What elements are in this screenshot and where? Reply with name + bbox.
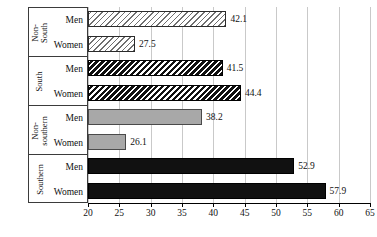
bar	[88, 36, 135, 52]
bar-row: 26.1	[88, 130, 370, 155]
row-label-women: Women	[51, 82, 87, 107]
group-block-southern: Southern Men Women	[29, 155, 87, 204]
x-axis-tick-label: 55	[303, 208, 313, 218]
bar-row: 38.2	[88, 105, 370, 130]
bar-row: 27.5	[88, 32, 370, 57]
row-label-men: Men	[51, 57, 87, 82]
bar	[88, 60, 223, 76]
group-label-line1: South	[35, 72, 45, 92]
bar-row: 42.1	[88, 7, 370, 32]
bar	[88, 109, 202, 125]
x-axis-tick-label: 65	[365, 208, 375, 218]
bar-value-label: 27.5	[135, 36, 156, 52]
bar-value-label: 26.1	[126, 134, 147, 150]
x-axis-tick	[245, 204, 246, 207]
x-axis-tick	[307, 204, 308, 207]
row-labels-non-southern: Men Women	[51, 106, 87, 154]
row-label-men: Men	[51, 155, 87, 180]
group-block-non-south: Non-South Men Women	[29, 8, 87, 57]
group-label-line1: Southern	[35, 164, 45, 195]
bar-value-label: 57.9	[326, 183, 347, 199]
x-axis-tick	[213, 204, 214, 207]
row-labels-non-south: Men Women	[51, 8, 87, 56]
bar-value-label: 38.2	[202, 109, 223, 125]
bar	[88, 134, 126, 150]
bar-value-label: 42.1	[226, 11, 247, 27]
x-axis-tick-label: 35	[177, 208, 187, 218]
x-axis-tick	[276, 204, 277, 207]
row-label-men: Men	[51, 106, 87, 131]
bar-value-label: 52.9	[294, 158, 315, 174]
bar	[88, 158, 294, 174]
group-label-line2: southern	[39, 116, 49, 145]
row-labels-southern: Men Women	[51, 155, 87, 204]
row-label-men: Men	[51, 8, 87, 33]
x-axis-tick-label: 20	[83, 208, 93, 218]
gridline	[370, 7, 371, 203]
group-block-south: South Men Women	[29, 57, 87, 106]
x-axis-tick-label: 30	[146, 208, 156, 218]
plot-area: 42.127.541.544.438.226.152.957.9	[88, 7, 370, 203]
group-label-southern: Southern	[29, 155, 51, 204]
group-block-non-southern: Non-southern Men Women	[29, 106, 87, 155]
x-axis-tick	[339, 204, 340, 207]
x-axis-tick	[151, 204, 152, 207]
x-axis-tick-label: 45	[240, 208, 250, 218]
x-axis-tick-label: 60	[334, 208, 344, 218]
category-label-panel: Non-South Men Women South Men Women Non-…	[28, 7, 88, 203]
x-axis-tick	[182, 204, 183, 207]
bar	[88, 85, 241, 101]
bar-row: 44.4	[88, 81, 370, 106]
bar-value-label: 41.5	[223, 60, 244, 76]
x-axis-tick-label: 25	[115, 208, 125, 218]
bar	[88, 183, 326, 199]
bar-row: 41.5	[88, 56, 370, 81]
group-label-line2: South	[39, 23, 49, 43]
bar	[88, 11, 226, 27]
x-axis-tick-label: 50	[271, 208, 281, 218]
x-axis-tick	[370, 204, 371, 207]
x-axis-tick	[88, 204, 89, 207]
row-label-women: Women	[51, 131, 87, 156]
row-labels-south: Men Women	[51, 57, 87, 105]
x-axis-tick-label: 40	[209, 208, 219, 218]
row-label-women: Women	[51, 33, 87, 58]
x-axis-tick	[119, 204, 120, 207]
group-label-south: South	[29, 57, 51, 106]
row-label-women: Women	[51, 180, 87, 205]
bar-row: 57.9	[88, 179, 370, 204]
bar-chart: Non-South Men Women South Men Women Non-…	[0, 0, 377, 237]
group-label-non-south: Non-South	[29, 8, 51, 57]
group-label-non-southern: Non-southern	[29, 106, 51, 155]
bar-row: 52.9	[88, 154, 370, 179]
x-axis-line	[88, 203, 371, 204]
bar-value-label: 44.4	[241, 85, 262, 101]
